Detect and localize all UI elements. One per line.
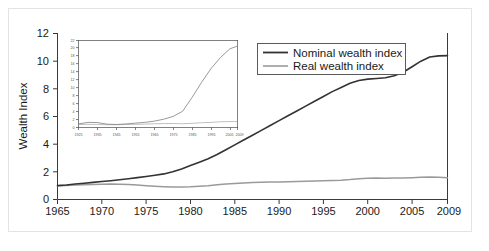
y-tick-label-4: 4 xyxy=(43,138,49,150)
inset-background xyxy=(78,40,238,128)
inset-y-label-4: 4 xyxy=(73,110,75,114)
series-line-real-wealth-index xyxy=(58,177,448,187)
legend-label-nominal: Nominal wealth index xyxy=(293,47,403,59)
inset-y-label-6: 6 xyxy=(73,102,75,106)
inset-x-label-1965: 1965 xyxy=(151,133,159,137)
x-tick-label-1995: 1995 xyxy=(311,205,335,217)
y-tick-label-2: 2 xyxy=(43,166,49,178)
x-tick-group: 1965 1970 1975 1980 1985 1990 1995 2000 … xyxy=(45,200,461,218)
inset-x-label-1935: 1935 xyxy=(94,133,102,137)
inset-y-label-20: 20 xyxy=(71,46,75,50)
inset-x-label-1955: 1955 xyxy=(132,133,140,137)
y-tick-label-8: 8 xyxy=(43,83,49,95)
inset-x-label-2005: 2005 xyxy=(226,133,234,137)
inset-x-tick-group: 1925 1935 1945 1955 1965 1975 1985 1995 … xyxy=(75,128,244,137)
inset-x-label-1925: 1925 xyxy=(75,133,83,137)
x-tick-label-1990: 1990 xyxy=(267,205,291,217)
x-tick-label-2005: 2005 xyxy=(400,205,424,217)
y-tick-label-10: 10 xyxy=(37,55,49,67)
inset-x-label-1995: 1995 xyxy=(208,133,216,137)
x-tick-label-1985: 1985 xyxy=(223,205,247,217)
legend-label-real: Real wealth index xyxy=(293,60,384,72)
inset-x-label-1985: 1985 xyxy=(189,133,197,137)
y-tick-label-12: 12 xyxy=(37,27,49,39)
inset-y-label-16: 16 xyxy=(71,62,75,66)
x-tick-label-1965: 1965 xyxy=(45,205,69,217)
figure-root: 0 2 4 6 8 10 12 Wealth Index 1965 1970 1… xyxy=(0,0,489,251)
x-tick-label-1980: 1980 xyxy=(178,205,202,217)
inset-y-label-10: 10 xyxy=(71,86,75,90)
x-tick-label-1970: 1970 xyxy=(90,205,114,217)
legend: Nominal wealth index Real wealth index xyxy=(258,44,406,75)
x-tick-label-1975: 1975 xyxy=(134,205,158,217)
inset-y-label-2: 2 xyxy=(73,118,75,122)
inset-x-label-2009: 2009 xyxy=(236,133,244,137)
wealth-index-line-chart: 0 2 4 6 8 10 12 Wealth Index 1965 1970 1… xyxy=(0,0,489,251)
inset-y-label-8: 8 xyxy=(73,94,75,98)
inset-x-label-1975: 1975 xyxy=(170,133,178,137)
y-axis-title: Wealth Index xyxy=(17,82,29,149)
inset-chart: 0 2 4 6 8 10 12 14 16 18 20 22 xyxy=(71,39,244,137)
inset-y-label-22: 22 xyxy=(71,39,75,43)
inset-y-label-0: 0 xyxy=(73,126,75,130)
inset-y-label-12: 12 xyxy=(71,78,75,82)
y-tick-label-0: 0 xyxy=(43,193,49,205)
inset-x-label-1945: 1945 xyxy=(113,133,121,137)
x-tick-label-2009: 2009 xyxy=(437,205,461,217)
y-tick-label-6: 6 xyxy=(43,110,49,122)
inset-y-tick-group: 0 2 4 6 8 10 12 14 16 18 20 22 xyxy=(71,39,79,130)
x-tick-label-2000: 2000 xyxy=(355,205,379,217)
inset-y-label-18: 18 xyxy=(71,54,75,58)
y-tick-group: 0 2 4 6 8 10 12 xyxy=(37,27,58,205)
inset-y-label-14: 14 xyxy=(71,70,75,74)
